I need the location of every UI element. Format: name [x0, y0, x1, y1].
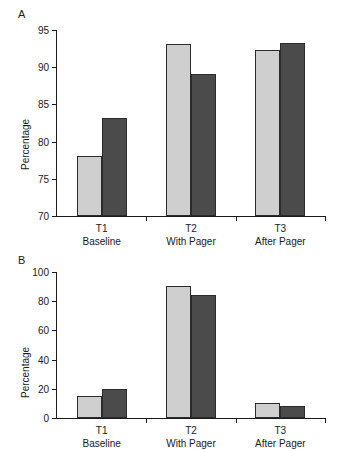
- x-axis-tick-end: [325, 216, 326, 221]
- x-axis-category: T2: [166, 222, 215, 235]
- y-axis-tick-label: 100: [32, 267, 49, 278]
- bar-T3-light: [255, 50, 280, 216]
- bar-T2-light: [166, 286, 191, 418]
- y-axis-tick-label: 60: [38, 325, 49, 336]
- panel-b-plot-area: 020406080100T1BaselineT2With PagerT3Afte…: [56, 272, 325, 419]
- x-axis-tick: [236, 418, 237, 423]
- x-axis-category: T1: [82, 222, 120, 235]
- bar-T2-dark: [191, 74, 216, 216]
- x-axis-category: T3: [255, 424, 306, 437]
- y-axis-tick-label: 90: [38, 62, 49, 73]
- y-axis-tick: [52, 142, 57, 143]
- y-axis-tick-label: 95: [38, 25, 49, 36]
- bar-T2-light: [166, 44, 191, 216]
- x-axis-sublabel: Baseline: [82, 437, 120, 450]
- y-axis-tick: [52, 179, 57, 180]
- x-axis-category: T2: [166, 424, 215, 437]
- x-axis-group-label: T1Baseline: [82, 418, 120, 450]
- bar-T2-dark: [191, 295, 216, 418]
- x-axis-tick: [146, 418, 147, 423]
- y-axis-tick: [52, 360, 57, 361]
- x-axis-category: T1: [82, 424, 120, 437]
- x-axis-group-label: T3After Pager: [255, 216, 306, 248]
- panel-b-y-axis-label: Percentage: [20, 347, 31, 398]
- y-axis-tick: [52, 30, 57, 31]
- panel-b: B Percentage 020406080100T1BaselineT2Wit…: [0, 248, 339, 445]
- bar-T3-dark: [280, 406, 305, 418]
- y-axis-tick-label: 85: [38, 99, 49, 110]
- bar-T3-dark: [280, 43, 305, 216]
- panel-a-label: A: [18, 8, 26, 20]
- panel-a-y-axis-label: Percentage: [20, 119, 31, 170]
- x-axis-group-label: T2With Pager: [166, 216, 215, 248]
- x-axis-tick-end: [325, 418, 326, 423]
- x-axis-sublabel: Baseline: [82, 235, 120, 248]
- y-axis-tick: [52, 272, 57, 273]
- x-axis-category: T3: [255, 222, 306, 235]
- y-axis-tick: [52, 104, 57, 105]
- x-axis-tick: [236, 216, 237, 221]
- y-axis-tick-label: 40: [38, 354, 49, 365]
- y-axis-tick-label: 80: [38, 136, 49, 147]
- x-axis-group-label: T2With Pager: [166, 418, 215, 450]
- x-axis-sublabel: After Pager: [255, 235, 306, 248]
- x-axis-group-label: T1Baseline: [82, 216, 120, 248]
- bar-T1-light: [77, 396, 102, 418]
- y-axis-tick: [52, 301, 57, 302]
- y-axis-tick-label: 0: [43, 413, 49, 424]
- y-axis-tick-label: 80: [38, 296, 49, 307]
- y-axis-tick: [52, 216, 57, 217]
- y-axis-tick: [52, 330, 57, 331]
- y-axis-tick: [52, 67, 57, 68]
- y-axis-tick: [52, 389, 57, 390]
- x-axis-sublabel: After Pager: [255, 437, 306, 450]
- bar-T3-light: [255, 403, 280, 418]
- x-axis-tick: [146, 216, 147, 221]
- y-axis-tick: [52, 418, 57, 419]
- panel-b-label: B: [18, 254, 26, 266]
- panel-a-plot-area: 707580859095T1BaselineT2With PagerT3Afte…: [56, 30, 325, 217]
- y-axis-tick-label: 75: [38, 173, 49, 184]
- y-axis-tick-label: 20: [38, 383, 49, 394]
- x-axis-sublabel: With Pager: [166, 437, 215, 450]
- panel-a: A Percentage 707580859095T1BaselineT2Wit…: [0, 0, 339, 248]
- x-axis-sublabel: With Pager: [166, 235, 215, 248]
- bar-T1-dark: [102, 389, 127, 418]
- y-axis-tick-label: 70: [38, 211, 49, 222]
- x-axis-group-label: T3After Pager: [255, 418, 306, 450]
- bar-T1-light: [77, 156, 102, 216]
- bar-T1-dark: [102, 118, 127, 216]
